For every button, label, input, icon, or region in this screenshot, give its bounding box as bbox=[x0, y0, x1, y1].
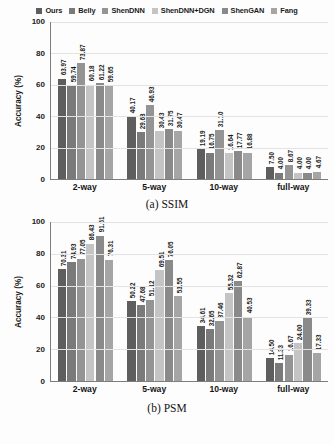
bar-rect: 59.74 bbox=[67, 85, 75, 179]
bar[interactable]: 32.65 bbox=[206, 222, 214, 381]
bar-rect: 4.00 bbox=[275, 173, 283, 179]
x-tick-label: 2-way bbox=[50, 182, 120, 192]
bar-rect: 73.87 bbox=[77, 63, 85, 179]
bar[interactable]: 34.61 bbox=[197, 222, 205, 381]
bar[interactable]: 60.18 bbox=[86, 22, 94, 179]
legend-item-fang[interactable]: Fang bbox=[271, 7, 297, 14]
bar[interactable]: 17.33 bbox=[313, 222, 321, 381]
bar-value-label: 4.67 bbox=[316, 156, 322, 168]
bar[interactable]: 37.46 bbox=[215, 222, 223, 381]
bar[interactable]: 16.88 bbox=[243, 22, 251, 179]
y-axis-ticks-ssim: 100806040200 bbox=[22, 22, 48, 180]
y-tick-label: 80 bbox=[36, 50, 45, 58]
bar-value-label: 30.47 bbox=[178, 112, 184, 128]
y-tick-label: 0 bbox=[41, 176, 45, 184]
bar[interactable]: 14.50 bbox=[266, 222, 274, 381]
bar-rect: 59.65 bbox=[105, 85, 113, 179]
legend-item-shengan[interactable]: ShenGAN bbox=[222, 7, 265, 14]
bar[interactable]: 30.43 bbox=[155, 22, 163, 179]
bar[interactable]: 4.00 bbox=[275, 22, 283, 179]
bar-value-label: 17.33 bbox=[316, 335, 322, 351]
bar[interactable]: 61.22 bbox=[96, 22, 104, 179]
bar[interactable]: 24.00 bbox=[294, 222, 302, 381]
y-axis-ticks-psm: 100806040200 bbox=[22, 222, 48, 382]
bar-group-10-way: 34.6132.6537.4655.3262.8740.53 bbox=[190, 222, 259, 381]
bar-rect: 32.65 bbox=[206, 329, 214, 381]
bar[interactable]: 4.00 bbox=[303, 22, 311, 179]
bar[interactable]: 77.05 bbox=[77, 222, 85, 381]
legend-swatch-icon bbox=[102, 8, 108, 14]
legend-item-shendnn-dgn[interactable]: ShenDNN+DGN bbox=[152, 7, 215, 14]
bar[interactable]: 16.67 bbox=[285, 222, 293, 381]
legend-item-label: ShenGAN bbox=[231, 7, 265, 14]
bar[interactable]: 62.87 bbox=[234, 222, 242, 381]
gridline bbox=[51, 148, 328, 149]
bar-group-full-way: 14.5011.3316.6724.0039.3317.33 bbox=[259, 222, 328, 381]
bar[interactable]: 86.43 bbox=[86, 222, 94, 381]
bar-rect: 14.50 bbox=[266, 358, 274, 381]
bar[interactable]: 40.17 bbox=[127, 22, 135, 179]
bar-rect: 91.51 bbox=[96, 236, 104, 382]
bar[interactable]: 55.32 bbox=[225, 222, 233, 381]
x-tick-label: 10-way bbox=[189, 182, 259, 192]
bar[interactable]: 59.65 bbox=[105, 22, 113, 179]
bar[interactable]: 46.93 bbox=[146, 22, 154, 179]
bar[interactable]: 19.19 bbox=[197, 22, 205, 179]
bar[interactable]: 30.47 bbox=[174, 22, 182, 179]
plot-area-psm: 70.3174.9377.0586.4391.5176.3150.2247.68… bbox=[50, 222, 328, 382]
bar[interactable]: 7.50 bbox=[266, 22, 274, 179]
gridline bbox=[51, 286, 328, 287]
legend-item-label: Fang bbox=[280, 7, 297, 14]
legend-item-shendnn[interactable]: ShenDNN bbox=[102, 7, 144, 14]
bar[interactable]: 29.68 bbox=[137, 22, 145, 179]
plot-area-ssim: 63.9759.7473.8760.1861.2259.6540.1729.68… bbox=[50, 22, 328, 180]
bar[interactable]: 31.10 bbox=[215, 22, 223, 179]
bar[interactable]: 11.33 bbox=[275, 222, 283, 381]
bar[interactable]: 4.67 bbox=[313, 22, 321, 179]
gridline bbox=[51, 349, 328, 350]
bar[interactable]: 73.87 bbox=[77, 22, 85, 179]
legend-item-belly[interactable]: Belly bbox=[69, 7, 95, 14]
y-tick-label: 100 bbox=[32, 218, 45, 226]
bar[interactable]: 16.64 bbox=[225, 22, 233, 179]
panel-caption-ssim: (a) SSIM bbox=[0, 198, 334, 210]
bar[interactable]: 76.31 bbox=[105, 222, 113, 381]
bar[interactable]: 40.53 bbox=[243, 222, 251, 381]
bar-rect: 16.67 bbox=[285, 355, 293, 382]
bar[interactable]: 76.05 bbox=[165, 222, 173, 381]
bar[interactable]: 17.77 bbox=[234, 22, 242, 179]
bar-groups-psm: 70.3174.9377.0586.4391.5176.3150.2247.68… bbox=[51, 222, 328, 381]
bar[interactable]: 59.74 bbox=[67, 22, 75, 179]
gridline bbox=[51, 254, 328, 255]
bar[interactable]: 70.31 bbox=[58, 222, 66, 381]
bar[interactable]: 74.93 bbox=[67, 222, 75, 381]
x-tick-label: 2-way bbox=[50, 384, 120, 394]
bar-rect: 55.32 bbox=[225, 293, 233, 381]
bar-rect: 4.67 bbox=[313, 172, 321, 179]
bar[interactable]: 53.55 bbox=[174, 222, 182, 381]
bar-rect: 16.88 bbox=[243, 153, 251, 180]
x-tick-label: full-way bbox=[259, 182, 329, 192]
bar-rect: 4.00 bbox=[303, 173, 311, 179]
bar[interactable]: 69.51 bbox=[155, 222, 163, 381]
panel-ssim: Accuracy (%) 100806040200 63.9759.7473.8… bbox=[0, 22, 334, 212]
bar-rect: 74.93 bbox=[67, 262, 75, 381]
bar[interactable]: 39.33 bbox=[303, 222, 311, 381]
bar-rect: 30.47 bbox=[174, 131, 182, 179]
bar[interactable]: 8.67 bbox=[285, 22, 293, 179]
bar[interactable]: 51.12 bbox=[146, 222, 154, 381]
bar[interactable]: 47.68 bbox=[137, 222, 145, 381]
bar[interactable]: 91.51 bbox=[96, 222, 104, 381]
bar[interactable]: 16.75 bbox=[206, 22, 214, 179]
bar[interactable]: 63.97 bbox=[58, 22, 66, 179]
panel-psm: Accuracy (%) 100806040200 70.3174.9377.0… bbox=[0, 222, 334, 434]
legend-item-ours[interactable]: Ours bbox=[36, 7, 62, 14]
bar[interactable]: 4.00 bbox=[294, 22, 302, 179]
bar[interactable]: 31.75 bbox=[165, 22, 173, 179]
legend-swatch-icon bbox=[271, 8, 277, 14]
x-axis-labels-ssim: 2-way5-way10-wayfull-way bbox=[50, 182, 328, 192]
gridline bbox=[51, 222, 328, 223]
bar-group-5-way: 50.2247.6851.1269.5176.0553.55 bbox=[120, 222, 189, 381]
legend-swatch-icon bbox=[36, 8, 42, 14]
bar[interactable]: 50.22 bbox=[127, 222, 135, 381]
